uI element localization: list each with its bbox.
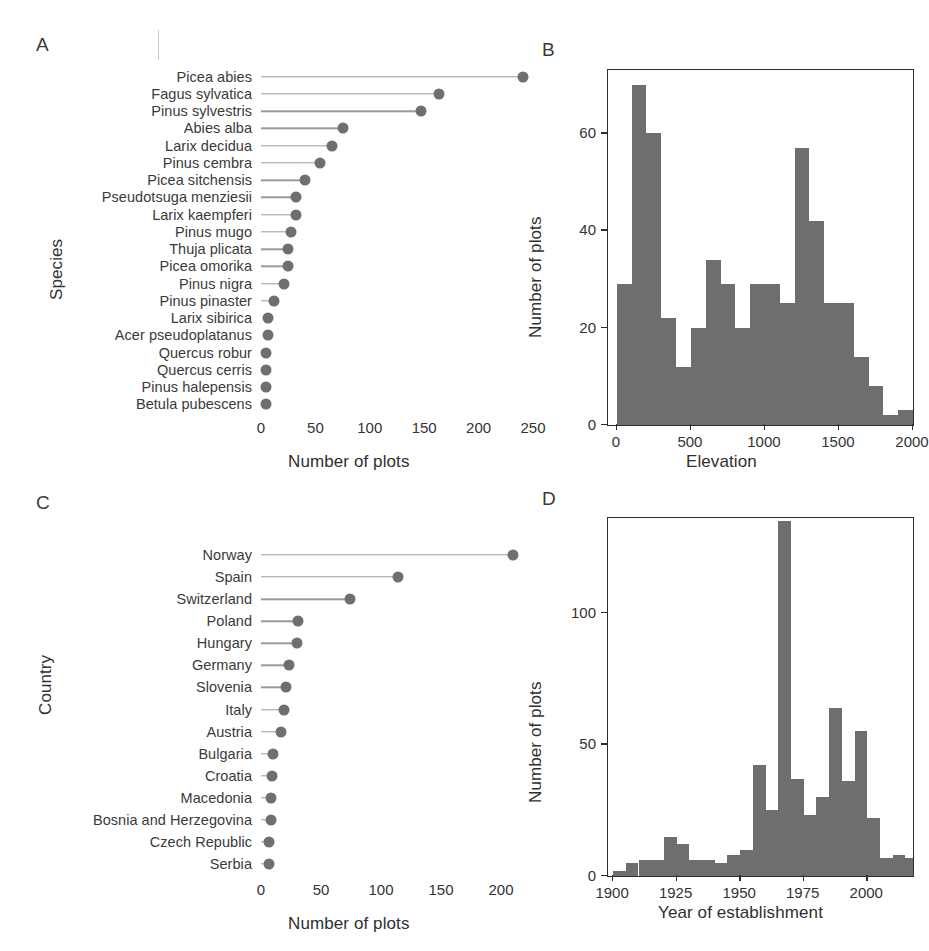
lollipop-dot xyxy=(415,106,426,117)
lollipop-row: Bosnia and Herzegovina xyxy=(261,811,501,829)
lollipop-category-label: Abies alba xyxy=(184,120,261,136)
lollipop-stem xyxy=(261,179,302,180)
lollipop-row: Abies alba xyxy=(261,119,533,137)
lollipop-category-label: Acer pseudoplatanus xyxy=(115,327,261,343)
histogram-bar xyxy=(804,815,817,876)
histogram-bar xyxy=(706,260,721,425)
histogram-bar xyxy=(778,521,791,876)
x-tick-mark xyxy=(676,875,677,881)
lollipop-category-label: Pinus cembra xyxy=(163,155,261,171)
lollipop-category-label: Germany xyxy=(192,657,261,673)
histogram-bar xyxy=(735,328,750,425)
panel-b-ylabel: Number of plots xyxy=(526,217,546,339)
lollipop-stem xyxy=(261,266,285,267)
histogram-bar xyxy=(883,415,898,425)
x-tick-label: 0 xyxy=(257,881,265,898)
lollipop-dot xyxy=(262,330,273,341)
x-tick-mark xyxy=(866,875,867,881)
x-tick-mark xyxy=(838,424,839,430)
lollipop-dot xyxy=(265,792,276,803)
panel-b-letter: B xyxy=(542,40,555,59)
lollipop-category-label: Larix sibirica xyxy=(171,310,261,326)
lollipop-stem xyxy=(261,598,347,599)
histogram-bar xyxy=(809,221,824,425)
x-tick-label: 500 xyxy=(677,433,702,450)
lollipop-category-label: Fagus sylvatica xyxy=(151,86,261,102)
histogram-bar xyxy=(795,148,810,425)
lollipop-category-label: Bulgaria xyxy=(198,746,261,762)
x-tick-label: 1975 xyxy=(786,884,819,901)
histogram-bar xyxy=(854,357,869,425)
y-tick-label: 0 xyxy=(588,416,596,433)
lollipop-dot xyxy=(293,616,304,627)
lollipop-category-label: Quercus cerris xyxy=(157,362,261,378)
lollipop-stem xyxy=(261,665,286,666)
lollipop-row: Austria xyxy=(261,723,501,741)
lollipop-row: Spain xyxy=(261,568,501,586)
lollipop-row: Czech Republic xyxy=(261,833,501,851)
lollipop-dot xyxy=(261,382,272,393)
x-tick-label: 150 xyxy=(428,881,453,898)
histogram-bar xyxy=(753,765,766,876)
x-tick-label: 1925 xyxy=(659,884,692,901)
lollipop-dot xyxy=(264,858,275,869)
lollipop-row: Larix sibirica xyxy=(261,309,533,327)
lollipop-row: Quercus robur xyxy=(261,344,533,362)
lollipop-row: Bulgaria xyxy=(261,745,501,763)
lollipop-dot xyxy=(268,748,279,759)
histogram-bar xyxy=(766,810,779,876)
lollipop-row: Norway xyxy=(261,546,501,564)
x-tick-label: 2000 xyxy=(850,884,883,901)
lollipop-dot xyxy=(281,682,292,693)
lollipop-row: Picea omorika xyxy=(261,257,533,275)
lollipop-stem xyxy=(261,128,340,129)
lollipop-stem xyxy=(261,576,395,577)
x-tick-mark xyxy=(739,875,740,881)
lollipop-category-label: Poland xyxy=(207,613,261,629)
lollipop-dot xyxy=(283,261,294,272)
panel-a: A Species Picea abiesFagus sylvaticaPinu… xyxy=(0,0,470,480)
lollipop-dot xyxy=(344,594,355,605)
histogram-bar xyxy=(750,284,765,425)
lollipop-row: Switzerland xyxy=(261,590,501,608)
histogram-bar xyxy=(727,855,740,876)
lollipop-stem xyxy=(261,197,293,198)
histogram-bar xyxy=(689,860,702,876)
histogram-bar xyxy=(639,860,652,876)
lollipop-category-label: Slovenia xyxy=(196,679,261,695)
panel-c-letter: C xyxy=(36,493,50,512)
histogram-bar xyxy=(824,303,839,425)
x-tick-label: 0 xyxy=(612,433,620,450)
histogram-bar xyxy=(646,133,661,425)
histogram-bar xyxy=(617,284,632,425)
lollipop-row: Pinus halepensis xyxy=(261,378,533,396)
panel-a-ylabel: Species xyxy=(47,239,67,300)
histogram-bar xyxy=(664,837,677,876)
lollipop-category-label: Hungary xyxy=(197,635,261,651)
lollipop-dot xyxy=(261,399,272,410)
histogram-bar xyxy=(869,386,884,425)
histogram-bar xyxy=(740,850,753,876)
lollipop-row: Pinus cembra xyxy=(261,154,533,172)
lollipop-dot xyxy=(261,347,272,358)
lollipop-row: Betula pubescens xyxy=(261,395,533,413)
lollipop-dot xyxy=(262,313,273,324)
panel-d: D Number of plots 1900192519501975200005… xyxy=(500,480,921,951)
lollipop-row: Pseudotsuga menziesii xyxy=(261,188,533,206)
histogram-bar xyxy=(715,863,728,876)
lollipop-row: Fagus sylvatica xyxy=(261,85,533,103)
lollipop-row: Slovenia xyxy=(261,678,501,696)
lollipop-dot xyxy=(261,364,272,375)
lollipop-category-label: Picea omorika xyxy=(159,258,261,274)
panel-b-xlabel: Elevation xyxy=(686,452,757,472)
lollipop-dot xyxy=(392,572,403,583)
histogram-bar xyxy=(898,410,913,425)
y-tick-mark xyxy=(601,229,607,230)
y-tick-label: 40 xyxy=(579,221,596,238)
x-tick-mark xyxy=(912,424,913,430)
lollipop-category-label: Bosnia and Herzegovina xyxy=(93,812,261,828)
lollipop-row: Pinus pinaster xyxy=(261,292,533,310)
lollipop-dot xyxy=(265,814,276,825)
histogram-bar xyxy=(721,284,736,425)
histogram-bar xyxy=(702,860,715,876)
